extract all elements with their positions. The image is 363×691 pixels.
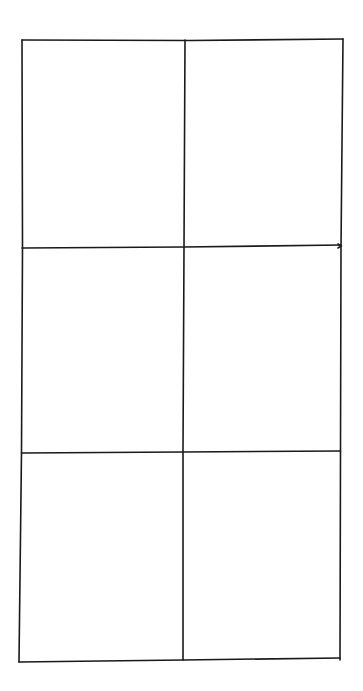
cell-r2c1 — [23, 249, 183, 452]
cell-r3c2 — [184, 453, 339, 658]
cell-r3c1 — [21, 454, 182, 660]
cell-r1c1 — [23, 41, 183, 247]
cell-r2c2 — [185, 247, 340, 451]
cell-r1c2 — [186, 41, 340, 245]
right-border — [340, 39, 343, 660]
